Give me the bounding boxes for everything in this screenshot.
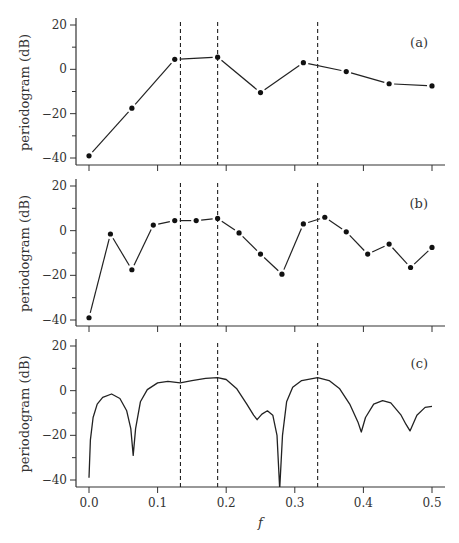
y-axis-label: periodogram (dB) xyxy=(17,34,32,151)
x-tick-label: 0.1 xyxy=(148,496,167,510)
data-point xyxy=(215,55,220,60)
periodogram-figure: 200−20−40periodogram (dB)(a)200−20−40per… xyxy=(0,0,459,543)
y-tick-label: 20 xyxy=(52,18,67,32)
x-tick-label: 0.5 xyxy=(422,496,441,510)
y-tick-label: 0 xyxy=(59,384,67,398)
data-point xyxy=(151,222,156,227)
x-axis-label: f xyxy=(257,515,265,530)
data-point xyxy=(322,215,327,220)
data-point xyxy=(258,90,263,95)
x-tick-label: 0.2 xyxy=(217,496,236,510)
x-tick-label: 0.4 xyxy=(354,496,373,510)
data-point xyxy=(258,252,263,257)
data-point xyxy=(215,216,220,221)
data-point xyxy=(301,221,306,226)
data-point xyxy=(86,153,91,158)
panel-label: (b) xyxy=(410,196,428,211)
y-tick-label: −20 xyxy=(42,268,67,282)
data-point xyxy=(344,69,349,74)
x-tick-label: 0.3 xyxy=(285,496,304,510)
y-tick-label: −20 xyxy=(42,428,67,442)
data-point xyxy=(429,245,434,250)
panel-label: (c) xyxy=(411,356,428,371)
periodogram-curve xyxy=(89,378,432,489)
y-tick-label: −20 xyxy=(42,107,67,121)
data-point xyxy=(108,231,113,236)
data-point xyxy=(387,81,392,86)
panel-b: 200−20−40periodogram (dB)(b) xyxy=(17,179,445,332)
data-point xyxy=(129,106,134,111)
data-point xyxy=(236,230,241,235)
y-axis-label: periodogram (dB) xyxy=(17,195,32,312)
panel-a: 200−20−40periodogram (dB)(a) xyxy=(17,18,445,171)
y-tick-label: −40 xyxy=(42,473,67,487)
panel-c: 200−20−400.00.10.20.30.40.5periodogram (… xyxy=(17,339,445,530)
data-point xyxy=(172,57,177,62)
data-point xyxy=(387,241,392,246)
y-tick-label: 0 xyxy=(59,62,67,76)
y-tick-label: −40 xyxy=(42,313,67,327)
y-tick-label: −40 xyxy=(42,151,67,165)
data-point xyxy=(194,218,199,223)
data-point xyxy=(279,272,284,277)
data-point xyxy=(365,252,370,257)
y-tick-label: 0 xyxy=(59,224,67,238)
x-tick-label: 0.0 xyxy=(79,496,98,510)
panel-label: (a) xyxy=(410,35,428,50)
data-point xyxy=(86,315,91,320)
y-tick-label: 20 xyxy=(52,339,67,353)
data-point xyxy=(408,265,413,270)
data-point xyxy=(172,218,177,223)
data-point xyxy=(429,83,434,88)
data-point xyxy=(129,267,134,272)
y-axis-label: periodogram (dB) xyxy=(17,355,32,472)
y-tick-label: 20 xyxy=(52,179,67,193)
data-point xyxy=(344,229,349,234)
data-point xyxy=(301,60,306,65)
